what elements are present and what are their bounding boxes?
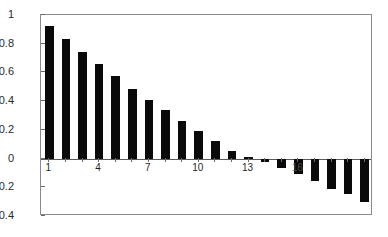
y-tick-label: 0	[8, 153, 14, 164]
x-tick-mark	[82, 158, 83, 162]
bar	[95, 64, 104, 159]
y-tick-mark	[41, 129, 45, 130]
y-tick-mark	[41, 158, 45, 159]
y-tick-label: 0.2	[0, 124, 14, 135]
y-tick-label: 0.8	[0, 38, 14, 49]
x-tick-label: 16	[292, 163, 303, 173]
bar-chart-figure: 10.80.60.40.20−0.2−0.4 147101316	[0, 0, 388, 237]
bar	[277, 159, 286, 168]
bar	[178, 121, 187, 158]
y-tick-label: −0.4	[0, 210, 14, 221]
bar	[194, 131, 203, 158]
bar	[128, 89, 137, 159]
y-tick-mark	[41, 186, 45, 187]
x-tick-mark	[331, 158, 332, 162]
x-tick-mark	[314, 158, 315, 162]
y-tick-label: 1	[8, 9, 14, 20]
x-tick-mark	[131, 158, 132, 162]
bar	[111, 76, 120, 159]
bar	[62, 39, 71, 159]
y-tick-mark	[41, 14, 45, 15]
y-tick-mark	[41, 100, 45, 101]
x-tick-mark	[115, 158, 116, 162]
bar	[360, 159, 369, 202]
x-tick-label: 7	[145, 163, 151, 173]
y-tick-label: −0.2	[0, 181, 14, 192]
bar-series	[41, 15, 371, 214]
bar	[78, 52, 87, 159]
x-tick-mark	[65, 158, 66, 162]
x-tick-mark	[347, 158, 348, 162]
x-tick-mark	[231, 158, 232, 162]
x-tick-label: 1	[46, 163, 52, 173]
x-tick-mark	[165, 158, 166, 162]
x-tick-label: 4	[95, 163, 101, 173]
x-tick-mark	[264, 158, 265, 162]
y-tick-mark	[41, 71, 45, 72]
bar	[228, 151, 237, 159]
y-tick-label: 0.6	[0, 66, 14, 77]
y-tick-mark	[41, 215, 45, 216]
plot-area	[40, 14, 372, 215]
x-tick-label: 13	[242, 163, 253, 173]
x-tick-mark	[214, 158, 215, 162]
bar	[327, 159, 336, 189]
y-tick-mark	[41, 43, 45, 44]
bar	[161, 110, 170, 158]
y-tick-label: 0.4	[0, 95, 14, 106]
bar	[45, 26, 54, 158]
x-tick-label: 10	[192, 163, 203, 173]
bar	[261, 159, 270, 163]
bar	[211, 141, 220, 158]
x-tick-mark	[364, 158, 365, 162]
x-tick-mark	[181, 158, 182, 162]
bar	[145, 100, 154, 159]
x-tick-mark	[281, 158, 282, 162]
bar	[311, 159, 320, 181]
bar	[344, 159, 353, 195]
